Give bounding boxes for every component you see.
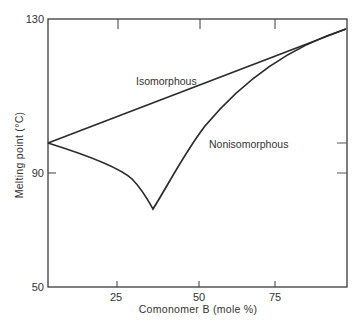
isomorphous-label: Isomorphous bbox=[136, 75, 197, 87]
x-axis-title: Comonomer B (mole %) bbox=[139, 303, 258, 315]
melting-point-chart: 130 90 50 25 50 75 Comonomer B (mole %) … bbox=[0, 0, 361, 327]
isomorphous-line bbox=[48, 29, 346, 143]
y-tick-label-90: 90 bbox=[32, 167, 44, 179]
x-tick-label-50: 50 bbox=[193, 291, 205, 303]
y-tick-label-130: 130 bbox=[26, 13, 44, 25]
nonisomorphous-label: Nonisomorphous bbox=[209, 138, 288, 150]
y-tick-label-50: 50 bbox=[32, 281, 44, 293]
y-axis-title: Melting point (°C) bbox=[13, 112, 25, 199]
x-tick-label-25: 25 bbox=[110, 291, 122, 303]
plot-frame bbox=[48, 19, 347, 287]
nonisomorphous-curve bbox=[48, 29, 346, 209]
x-tick-label-75: 75 bbox=[269, 291, 281, 303]
